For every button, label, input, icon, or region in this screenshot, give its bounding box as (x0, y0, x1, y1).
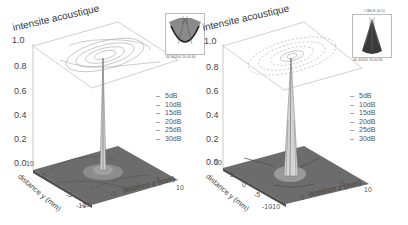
y-tick: -10 (76, 202, 86, 209)
z-tick: 0.8 (14, 61, 27, 71)
legend-item: –15dB (350, 109, 375, 118)
inset-x-ticks: -60-40200 20 40 60 (352, 58, 383, 62)
z-tick: 0.6 (206, 86, 219, 96)
legend-item: –30dB (156, 135, 181, 144)
legend-item: –25dB (350, 126, 375, 135)
inset-title: CIBLE (0,0) (364, 8, 385, 13)
x-tick: 5 (340, 180, 344, 187)
x-tick: 0 (136, 182, 140, 189)
y-tick: -5 (66, 191, 72, 198)
x-tick: -5 (110, 190, 116, 197)
legend-item: –30dB (350, 135, 375, 144)
inset-x-ticks: -60-40200 20 40 60 (165, 55, 196, 59)
z-tick: 1.0 (12, 35, 25, 45)
chart-panel-right: intensite acoustique 1.0 0.8 0.6 0.4 0.2… (204, 0, 408, 225)
z-tick: 0.8 (206, 62, 219, 72)
legend-item: –5dB (156, 92, 181, 101)
legend-item: –10dB (350, 101, 375, 110)
y-tick: 0 (55, 181, 59, 188)
legend-item: –5dB (350, 92, 375, 101)
z-tick: 1.0 (204, 36, 217, 46)
z-tick: 0.4 (206, 110, 219, 120)
y-tick: 0 (242, 181, 246, 188)
x-tick: 5 (156, 176, 160, 183)
z-tick: 0.0 (14, 158, 27, 168)
x-tick: -5 (298, 194, 304, 201)
x-tick: 10 (364, 186, 372, 193)
legend-item: –20dB (350, 118, 375, 127)
z-tick: 0.2 (14, 134, 27, 144)
contour-legend: –5dB –10dB –15dB –20dB –25dB –30dB (350, 92, 375, 143)
inset-cone-image (353, 15, 391, 57)
legend-item: –20dB (156, 118, 181, 127)
legend-item: –10dB (156, 101, 181, 110)
inset-plot-right (352, 14, 392, 58)
y-tick: 10 (214, 159, 222, 166)
y-tick: -10 (262, 203, 272, 210)
y-tick: 10 (26, 160, 34, 167)
y-tick: 5 (230, 171, 234, 178)
legend-item: –15dB (156, 109, 181, 118)
inset-plot-left (165, 13, 205, 55)
x-tick: 0 (322, 186, 326, 193)
chart-panel-left: intensite acoustique 1.0 0.8 0.6 0.4 0.2… (0, 0, 204, 225)
y-tick: -5 (254, 191, 260, 198)
y-tick: 5 (42, 172, 46, 179)
x-tick: 10 (176, 184, 184, 191)
z-tick: 0.6 (14, 86, 27, 96)
z-tick: 0.4 (14, 110, 27, 120)
inset-fan-image (166, 14, 204, 54)
contour-legend: –5dB –10dB –15dB –20dB –25dB –30dB (156, 92, 181, 143)
z-tick: 0.2 (206, 134, 219, 144)
legend-item: –25dB (156, 126, 181, 135)
